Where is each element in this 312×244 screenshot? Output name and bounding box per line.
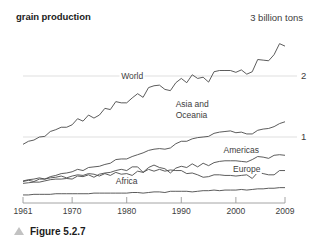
figure-container: grain production 3 billion tons 12 19611… — [0, 0, 312, 244]
triangle-up-icon — [14, 227, 24, 235]
annotation-europe: Europe — [232, 164, 262, 174]
x-tick-label-1961: 1961 — [14, 206, 33, 216]
line-chart-plot — [0, 0, 312, 244]
annotation-americas: Americas — [222, 145, 260, 155]
annotation-world: World — [120, 71, 145, 81]
x-tick-label-1990: 1990 — [172, 206, 191, 216]
x-tick-label-1970: 1970 — [63, 206, 82, 216]
annotation-asia-and-oceania: Asia andOceania — [174, 99, 210, 122]
figure-caption: Figure 5.2.7 — [0, 218, 312, 244]
annotation-africa: Africa — [114, 176, 139, 186]
x-axis-group — [23, 197, 285, 203]
x-tick-label-2000: 2000 — [226, 206, 245, 216]
y-tick-label-2: 2 — [301, 70, 306, 81]
series-line-africa — [23, 188, 285, 195]
series-line-world — [23, 44, 285, 145]
caption-label: Figure 5.2.7 — [30, 226, 86, 237]
x-tick-label-2009: 2009 — [276, 206, 295, 216]
y-tick-label-1: 1 — [301, 131, 306, 142]
x-tick-label-1980: 1980 — [117, 206, 136, 216]
